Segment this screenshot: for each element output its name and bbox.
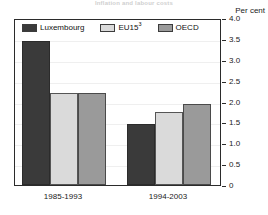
y-axis-tick-label: 0.5 xyxy=(229,161,240,169)
bar-luxembourg-1994-2003[interactable] xyxy=(127,124,155,185)
figure-title: Inflation and labour costs xyxy=(0,0,268,7)
legend-swatch-oecd xyxy=(158,24,173,32)
x-axis-label-group-1: 1985-1993 xyxy=(11,192,115,201)
legend-footnote-eu15: 3 xyxy=(139,21,142,27)
y-axis-tick-label: 3.0 xyxy=(229,57,240,65)
plot-area xyxy=(14,19,221,186)
y-axis-tick xyxy=(222,40,226,41)
bar-luxembourg-1985-1993[interactable] xyxy=(22,41,50,185)
chart-legend: Luxembourg EU153 OECD xyxy=(22,23,199,32)
y-axis-tick xyxy=(222,186,226,187)
y-axis-tick-label: 2.5 xyxy=(229,78,240,86)
y-axis-tick-label: 0 xyxy=(229,182,233,190)
legend-item-eu15[interactable]: EU153 xyxy=(100,23,141,32)
bar-oecd-1985-1993[interactable] xyxy=(78,93,106,185)
legend-item-luxembourg[interactable]: Luxembourg xyxy=(22,23,84,32)
legend-item-oecd[interactable]: OECD xyxy=(158,23,199,32)
legend-label-luxembourg: Luxembourg xyxy=(40,23,84,32)
x-axis-label-group-2: 1994-2003 xyxy=(116,192,220,201)
legend-label-eu15: EU153 xyxy=(118,23,141,32)
bar-eu15-1994-2003[interactable] xyxy=(155,112,183,185)
y-axis-tick-label: 3.5 xyxy=(229,36,240,44)
y-axis-tick xyxy=(222,123,226,124)
legend-label-oecd: OECD xyxy=(176,23,199,32)
y-axis-tick xyxy=(222,82,226,83)
bar-eu15-1985-1993[interactable] xyxy=(50,93,78,185)
bar-oecd-1994-2003[interactable] xyxy=(183,104,211,185)
y-axis-tick xyxy=(222,144,226,145)
y-axis-tick xyxy=(222,19,226,20)
legend-label-eu15-text: EU15 xyxy=(118,23,138,32)
y-axis-tick-label: 4.0 xyxy=(229,15,240,23)
bar-chart: Inflation and labour costs Per cent 4.03… xyxy=(0,0,268,215)
legend-swatch-luxembourg xyxy=(22,24,37,32)
y-axis-tick-label: 1.5 xyxy=(229,119,240,127)
y-axis-tick-label: 1.0 xyxy=(229,140,240,148)
y-axis-tick xyxy=(222,103,226,104)
y-axis-tick xyxy=(222,165,226,166)
legend-swatch-eu15 xyxy=(100,24,115,32)
y-axis-tick xyxy=(222,61,226,62)
y-axis-tick-label: 2.0 xyxy=(229,99,240,107)
